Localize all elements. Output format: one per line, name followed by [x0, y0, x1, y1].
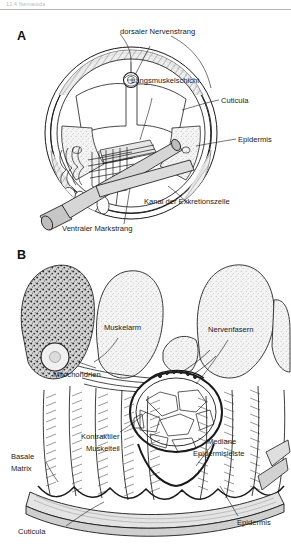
panel-b-epidermal-lobes — [21, 265, 290, 379]
label-epidermisleiste: Epidermisleiste — [193, 449, 245, 458]
epidermal-lobe-right-edge — [272, 300, 290, 372]
panel-b-cut-edge — [258, 440, 290, 490]
panel-letter-b: B — [17, 248, 26, 262]
label-mediane: Mediane — [207, 437, 236, 446]
label-kontraktiler-muskelteil-line1: Kontraktiler — [81, 432, 119, 441]
panel-b-nerve-cord — [130, 371, 222, 487]
panel-letter-a: A — [17, 29, 26, 43]
label-cuticula-b: Cuticula — [18, 527, 45, 536]
panel-b-illustration — [0, 0, 291, 553]
label-kontraktiler-muskelteil-line2: Muskelteil — [86, 444, 120, 453]
label-matrix: Matrix — [11, 464, 32, 473]
epidermal-lobe-small — [163, 336, 198, 373]
label-nervenfasern: Nervenfasern — [208, 325, 254, 334]
label-mitochondrien: Mitochondrien — [53, 370, 101, 379]
label-muskelarm: Muskelarm — [104, 323, 141, 332]
epidermal-lobe-3 — [197, 265, 274, 378]
figure-page: 12.4 Nematoda — [0, 0, 291, 553]
label-basale: Basale — [11, 452, 34, 461]
panel-b-cuticle — [26, 492, 284, 536]
label-epidermis-b: Epidermis — [237, 518, 271, 527]
panel-b-basal-matrix — [38, 486, 284, 499]
